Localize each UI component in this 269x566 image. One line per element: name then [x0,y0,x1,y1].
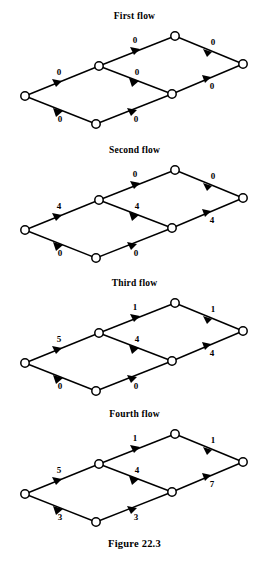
flow-graph-first: 0 0 0 0 0 0 0 [0,26,269,130]
node-source [21,359,29,367]
figure-caption: Figure 22.3 [0,538,269,549]
label-source-lower: 0 [58,114,63,124]
node-top [171,299,179,307]
label-top-sink: 0 [211,171,216,181]
label-lower-mid: 0 [134,381,139,391]
cut-off-running-header [0,0,269,1]
label-upper-mid: 4 [135,465,140,475]
label-mid-sink: 4 [210,215,215,225]
label-source-upper: 4 [57,201,62,211]
node-sink [239,194,247,202]
arrowheads-second [52,181,212,251]
edge-top-sink [175,170,243,198]
label-source-lower: 0 [58,381,63,391]
label-upper-top: 1 [133,433,138,443]
label-upper-mid: 4 [135,201,140,211]
arrowhead-source-upper [52,346,62,354]
label-mid-sink: 4 [210,348,215,358]
node-lower [92,387,100,395]
label-source-lower: 0 [58,248,63,258]
node-mid [168,90,176,98]
label-source-lower: 3 [58,512,63,522]
edge-top-sink [175,303,243,331]
label-top-sink: 1 [211,435,216,445]
flow-title-third: Third flow [0,278,269,288]
label-lower-mid: 3 [134,512,139,522]
node-source [21,490,29,498]
flow-graph-fourth: 5 1 1 4 7 3 3 [0,424,269,528]
label-upper-top: 0 [133,35,138,45]
label-top-sink: 0 [211,37,216,47]
node-source [21,92,29,100]
flow-graph-second: 4 0 0 4 4 0 0 [0,160,269,264]
label-lower-mid: 0 [134,248,139,258]
label-mid-sink: 0 [210,81,215,91]
flow-title-first: First flow [0,11,269,21]
label-top-sink: 1 [211,304,216,314]
node-lower [92,254,100,262]
label-source-upper: 5 [57,334,62,344]
label-upper-mid: 4 [135,334,140,344]
arrowhead-source-upper [52,79,62,87]
node-upper [95,196,103,204]
node-top [171,430,179,438]
node-upper [95,62,103,70]
node-upper [95,329,103,337]
label-upper-mid: 0 [135,67,140,77]
label-source-upper: 5 [57,465,62,475]
network-diagram-first: 0 0 0 0 0 0 0 [0,26,269,130]
node-top [171,166,179,174]
node-sink [239,60,247,68]
flow-title-second: Second flow [0,145,269,155]
arrowheads-fourth [52,445,212,515]
node-mid [168,488,176,496]
arrowhead-source-upper [52,213,62,221]
network-diagram-second: 4 0 0 4 4 0 0 [0,160,269,264]
arrowhead-source-upper [52,477,62,485]
network-diagram-fourth: 5 1 1 4 7 3 3 [0,424,269,528]
flow-title-fourth: Fourth flow [0,409,269,419]
edge-top-sink [175,36,243,64]
node-mid [168,224,176,232]
label-source-upper: 0 [57,67,62,77]
flow-graph-third: 5 1 1 4 4 0 0 [0,293,269,397]
node-lower [92,518,100,526]
edge-top-sink [175,434,243,462]
arrowheads-first [52,47,212,117]
node-mid [168,357,176,365]
network-diagram-third: 5 1 1 4 4 0 0 [0,293,269,397]
node-upper [95,460,103,468]
node-source [21,226,29,234]
label-upper-top: 0 [133,169,138,179]
node-lower [92,120,100,128]
arrowheads-third [52,314,212,384]
node-sink [239,458,247,466]
label-lower-mid: 0 [134,114,139,124]
node-top [171,32,179,40]
figure-page: First flow [0,0,269,566]
label-mid-sink: 7 [210,479,215,489]
label-upper-top: 1 [133,302,138,312]
node-sink [239,327,247,335]
